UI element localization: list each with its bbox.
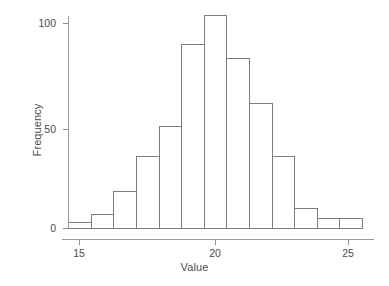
y-tick-label-100: 100 [16, 17, 56, 29]
x-tick-label-20: 20 [195, 247, 235, 259]
histogram-bar [113, 191, 137, 229]
y-axis-title: Frequency [31, 80, 43, 180]
x-axis-line [62, 239, 374, 240]
x-axis-title: Value [0, 261, 389, 273]
histogram-bar [249, 103, 273, 229]
histogram-bar [91, 214, 115, 229]
histogram-bar [204, 15, 228, 229]
y-tick-mark-100 [63, 23, 68, 24]
histogram-bar [317, 218, 341, 229]
histogram-bar [159, 126, 183, 230]
histogram-bar [136, 156, 160, 229]
x-tick-label-25: 25 [328, 247, 368, 259]
histogram-bar [68, 222, 92, 229]
x-tick-mark-20 [215, 240, 216, 245]
histogram-bar [181, 44, 205, 230]
x-tick-mark-25 [348, 240, 349, 245]
y-tick-mark-0 [63, 228, 68, 229]
x-tick-mark-15 [79, 240, 80, 245]
histogram-bar [272, 156, 296, 229]
histogram-bar [226, 58, 250, 229]
y-tick-label-0: 0 [16, 222, 56, 234]
x-tick-label-15: 15 [59, 247, 99, 259]
histogram-bar [294, 208, 318, 230]
y-axis-line [68, 16, 69, 228]
histogram-bar [339, 218, 363, 229]
plot-area [0, 0, 389, 286]
y-tick-mark-50 [63, 129, 68, 130]
histogram-figure: 0 50 100 15 20 25 Value Frequency [0, 0, 389, 286]
